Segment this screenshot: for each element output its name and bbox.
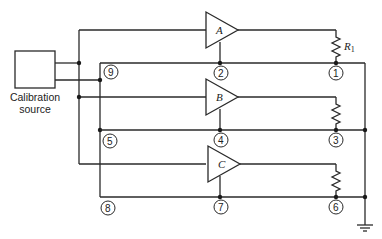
amplifier-a: A <box>206 12 336 65</box>
node-3: 3 <box>329 133 343 147</box>
svg-text:C: C <box>218 158 226 170</box>
svg-text:1: 1 <box>333 68 339 79</box>
node-7: 7 <box>214 200 228 214</box>
node-4: 4 <box>214 133 228 147</box>
node-8: 8 <box>101 201 115 215</box>
node-9: 9 <box>104 65 118 79</box>
resistor-r3-icon <box>332 164 340 199</box>
calibration-source-label-line2: source <box>4 103 66 115</box>
node-6: 6 <box>329 200 343 214</box>
svg-text:5: 5 <box>107 136 113 147</box>
node-1: 1 <box>329 66 343 80</box>
amplifier-c: C <box>208 146 336 199</box>
svg-text:7: 7 <box>218 202 224 213</box>
node-2: 2 <box>214 66 228 80</box>
calibration-source-label-line1: Calibration <box>4 91 66 103</box>
ground-icon <box>357 225 373 231</box>
svg-text:3: 3 <box>333 135 339 146</box>
calibration-source-label: Calibration source <box>4 91 66 115</box>
svg-text:A: A <box>215 24 223 36</box>
node-5: 5 <box>103 134 117 148</box>
svg-text:9: 9 <box>108 67 114 78</box>
amplifier-b: B <box>206 79 336 132</box>
calibration-circuit-diagram: A B C R1 9 2 <box>0 0 382 239</box>
resistor-r2-icon <box>332 97 340 132</box>
svg-text:2: 2 <box>218 68 224 79</box>
svg-text:6: 6 <box>333 202 339 213</box>
svg-text:4: 4 <box>218 135 224 146</box>
resistor-r1-icon <box>332 30 340 65</box>
calibration-source-box <box>15 51 55 88</box>
svg-text:B: B <box>216 91 223 103</box>
resistor-label: R1 <box>343 40 355 54</box>
svg-text:8: 8 <box>105 203 111 214</box>
